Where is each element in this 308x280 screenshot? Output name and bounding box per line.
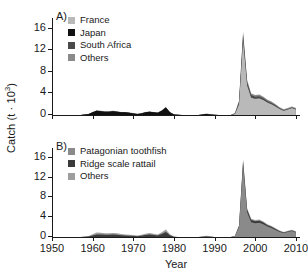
panel-a-legend-label: Others	[80, 52, 109, 65]
catch-by-year-figure: Catch (t · 103) A) B) 0481216 0481216 19…	[0, 0, 308, 280]
panel-a-y-tick-label: 8	[40, 64, 46, 76]
y-axis-title: Catch (t · 103)	[5, 53, 17, 183]
panel-b-x-tick-label: 2000	[235, 242, 275, 254]
panel-b-y-tick-label: 0	[40, 229, 46, 241]
legend-swatch-icon	[68, 173, 75, 180]
panel-b-x-tick-label: 1960	[73, 242, 113, 254]
panel-b-legend-item: Patagonian toothfish	[68, 145, 167, 158]
panel-b-x-tick-label: 1970	[113, 242, 153, 254]
panel-b-legend-label: Others	[80, 170, 109, 183]
panel-b-y-tick-label: 4	[40, 209, 46, 221]
panel-a-legend-label: Japan	[80, 27, 106, 40]
panel-a-y-tick-label: 4	[40, 85, 46, 97]
panel-a-y-tick-label: 12	[34, 42, 46, 54]
y-axis-title-mid: · 10	[5, 91, 17, 110]
panel-a-y-tick-label: 16	[34, 21, 46, 33]
panel-a-legend-label: France	[80, 14, 110, 27]
panel-a-legend-label: South Africa	[80, 39, 131, 52]
panel-a-legend-item: Japan	[68, 27, 131, 40]
panel-a-legend-item: France	[68, 14, 131, 27]
x-axis-title: Year	[52, 258, 300, 270]
panel-b-x-tick-label: 2010	[276, 242, 308, 254]
panel-b-y-tick-label: 8	[40, 189, 46, 201]
panel-b-x-tick-label: 1980	[154, 242, 194, 254]
legend-swatch-icon	[68, 29, 75, 36]
y-axis-title-exponent: 3	[3, 87, 12, 91]
y-axis-title-end: )	[5, 83, 17, 87]
panel-b-legend: Patagonian toothfishRidge scale rattailO…	[68, 145, 167, 183]
legend-swatch-icon	[68, 160, 75, 167]
panel-b-x-tick-label: 1950	[32, 242, 72, 254]
panel-a-legend-item: South Africa	[68, 39, 131, 52]
panel-b-legend-item: Ridge scale rattail	[68, 158, 167, 171]
legend-swatch-icon	[68, 148, 75, 155]
panel-b-legend-label: Ridge scale rattail	[80, 158, 156, 171]
y-axis-title-wrapper: Catch (t · 103)	[0, 0, 22, 240]
panel-b-legend-item: Others	[68, 170, 167, 183]
panel-b-x-tick-label: 1990	[195, 242, 235, 254]
panel-b-y-tick-label: 12	[34, 170, 46, 182]
y-axis-title-text: Catch (t	[5, 110, 17, 152]
panel-a-legend: FranceJapanSouth AfricaOthers	[68, 14, 131, 64]
panel-b-y-tick-label: 16	[34, 150, 46, 162]
legend-swatch-icon	[68, 54, 75, 61]
legend-swatch-icon	[68, 42, 75, 49]
panel-a-y-tick-label: 0	[40, 107, 46, 119]
panel-a-legend-item: Others	[68, 52, 131, 65]
legend-swatch-icon	[68, 17, 75, 24]
panel-b-legend-label: Patagonian toothfish	[80, 145, 167, 158]
